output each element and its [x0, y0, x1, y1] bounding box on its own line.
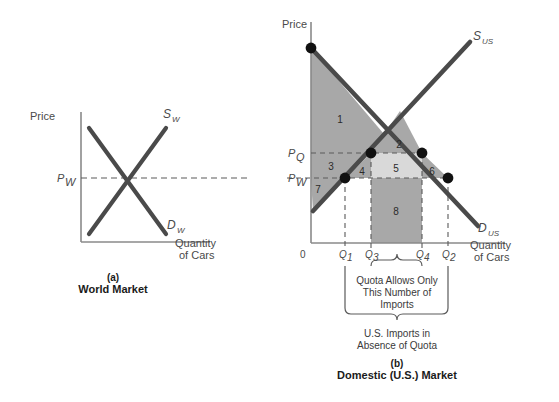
marker-demand-intercept — [306, 43, 317, 54]
panel-b-pw-label-main: P — [288, 172, 296, 184]
panel-b-q4-label-sub: 4 — [424, 252, 430, 263]
panel-b-demand-label-sub: US — [488, 229, 500, 238]
panel-a-supply-label: S W — [163, 107, 181, 124]
panel-a-pw-label-sub: W — [65, 176, 77, 188]
region-2-label: 2 — [396, 139, 402, 150]
region-6-shape — [422, 153, 448, 178]
region-1-label: 1 — [337, 114, 343, 125]
panel-b: Price Quantity of Cars 0 P Q P W Q 1 Q 3… — [282, 18, 511, 351]
panel-b-caption-title: Domestic (U.S.) Market — [302, 369, 492, 381]
panel-a-pw-label-main: P — [57, 172, 65, 184]
quota-annotation-line2: This Number of — [363, 287, 432, 298]
economics-figure: Price Quantity of Cars P W S W D W — [0, 0, 559, 402]
panel-a-caption: (a) World Market — [48, 272, 178, 295]
panel-b-q4-label-main: Q — [416, 249, 424, 260]
panel-b-q2-label-sub: 2 — [449, 252, 456, 263]
panel-a: Price Quantity of Cars P W S W D W — [30, 107, 250, 261]
marker-q3-pq — [366, 148, 377, 159]
panel-a-supply-label-main: S — [163, 107, 171, 121]
panel-b-origin-label: 0 — [300, 249, 306, 260]
panel-b-pw-label-sub: W — [296, 176, 308, 188]
panel-a-pw-label: P W — [57, 172, 77, 188]
panel-b-x-axis-label-line1: Quantity — [470, 239, 511, 251]
panel-a-caption-id: (a) — [48, 272, 178, 283]
region-5-label: 5 — [393, 163, 399, 174]
panel-b-pq-label-main: P — [288, 147, 296, 159]
marker-q4-pq — [417, 148, 428, 159]
panel-a-demand-label: D W — [167, 218, 186, 235]
panel-b-supply-label-main: S — [473, 29, 481, 43]
panel-b-supply-label: S US — [473, 29, 494, 46]
panel-b-x-axis-label-line2: of Cars — [474, 251, 510, 263]
panel-b-demand-label-main: D — [478, 221, 487, 235]
imports-annotation-line1: U.S. Imports in — [364, 328, 430, 339]
panel-b-q3-tick-label: Q 3 — [365, 249, 379, 263]
panel-a-supply-label-sub: W — [172, 115, 181, 124]
panel-b-q2-label-main: Q — [442, 249, 450, 260]
panel-b-q3-label-main: Q — [365, 249, 373, 260]
region-8-label: 8 — [393, 206, 399, 217]
panel-b-pw-label: P W — [288, 172, 308, 188]
panel-b-pq-label-sub: Q — [296, 151, 305, 163]
quota-annotation-line1: Quota Allows Only — [356, 275, 438, 286]
panel-a-y-axis-label: Price — [30, 110, 55, 122]
quota-brace-icon — [371, 254, 422, 266]
panel-b-pq-label: P Q — [288, 147, 305, 163]
panel-b-supply-label-sub: US — [482, 37, 494, 46]
panel-a-x-axis-label-line2: of Cars — [179, 249, 215, 261]
imports-annotation-line2: Absence of Quota — [357, 340, 437, 351]
quota-annotation-line3: Imports — [380, 299, 413, 310]
panel-b-q1-label-main: Q — [339, 249, 347, 260]
region-3-label: 3 — [328, 161, 334, 172]
panel-b-demand-label: D US — [478, 221, 500, 238]
panel-b-caption: (b) Domestic (U.S.) Market — [302, 358, 492, 381]
figure-svg: Price Quantity of Cars P W S W D W — [0, 0, 559, 402]
panel-b-q4-tick-label: Q 4 — [416, 249, 430, 263]
panel-b-y-axis-label: Price — [282, 18, 307, 30]
panel-a-demand-label-main: D — [167, 218, 176, 232]
marker-q2-pw — [443, 173, 454, 184]
region-6-label: 6 — [429, 166, 435, 177]
panel-b-q1-label-sub: 1 — [347, 252, 353, 263]
region-7-label: 7 — [315, 184, 321, 195]
panel-b-q2-tick-label: Q 2 — [442, 249, 456, 263]
panel-b-caption-id: (b) — [302, 358, 492, 369]
region-4-label: 4 — [359, 166, 365, 177]
panel-a-demand-label-sub: W — [177, 226, 186, 235]
panel-b-q3-label-sub: 3 — [373, 252, 379, 263]
panel-b-q1-tick-label: Q 1 — [339, 249, 353, 263]
panel-a-caption-title: World Market — [48, 283, 178, 295]
panel-a-x-axis-label-line1: Quantity — [175, 237, 216, 249]
marker-q1-pw — [340, 173, 351, 184]
